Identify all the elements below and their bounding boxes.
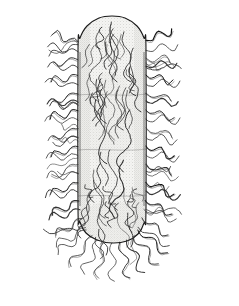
bacterium-illustration: Rod-shaped bacterium with peritrichous f…	[0, 0, 239, 306]
figure-root: Rod-shaped bacterium with peritrichous f…	[0, 0, 239, 306]
